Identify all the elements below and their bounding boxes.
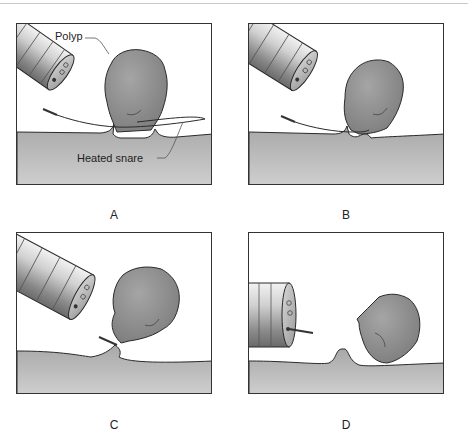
- snare-catheter: [281, 116, 295, 122]
- panel-a: Polyp Heated snare: [16, 23, 212, 185]
- mucosa-tissue: [17, 345, 212, 394]
- endoscope: [17, 233, 100, 322]
- snare-catheter: [43, 109, 57, 115]
- panel-d-caption: D: [248, 418, 444, 432]
- panel-c-caption: C: [16, 418, 212, 432]
- heated-snare-label: Heated snare: [77, 152, 143, 164]
- polyp: [344, 60, 403, 134]
- snare-catheter: [99, 337, 117, 345]
- endoscope: [249, 24, 322, 94]
- severed-polyp: [357, 294, 420, 363]
- mucosa-tissue: [249, 126, 444, 185]
- polyp: [112, 267, 179, 343]
- panel-a-caption: A: [16, 208, 212, 222]
- panel-d: [248, 232, 444, 394]
- polyp-label: Polyp: [55, 30, 83, 42]
- mucosa-tissue: [249, 349, 444, 394]
- panel-c: [16, 232, 212, 394]
- panel-b: [248, 23, 444, 185]
- header-rule: [0, 3, 468, 4]
- panel-b-caption: B: [248, 208, 444, 222]
- endoscope: [249, 283, 296, 347]
- polyp-leader-line: [85, 38, 109, 54]
